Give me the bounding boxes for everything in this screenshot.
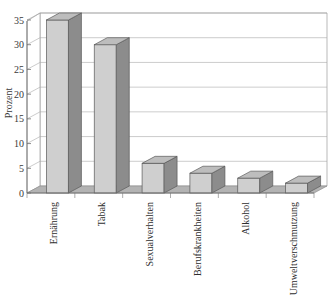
bar-side-face [68,13,81,193]
bar-front-face [46,20,68,193]
bar-side-face [116,38,129,193]
bar [46,13,81,193]
y-tick-label: 30 [14,39,24,50]
bar [142,156,177,193]
bar-front-face [286,183,308,193]
bar [190,166,225,193]
category-label: Tabak [96,202,107,226]
bar-front-face [238,178,260,193]
y-tick-label: 0 [19,188,24,199]
category-label: Alkohol [240,202,251,235]
y-tick-label: 35 [14,15,24,26]
category-label: Ernährung [48,202,59,244]
bar-chart: 05101520253035 Prozent ErnährungTabakSex… [0,0,336,301]
plot-left-wall [27,13,40,193]
chart-canvas: 05101520253035 Prozent ErnährungTabakSex… [0,0,336,301]
category-label: Sexualverhalten [144,202,155,266]
y-axis-title: Prozent [3,88,14,119]
bar-front-face [142,163,164,193]
plot-back-wall [40,13,327,186]
y-tick-label: 20 [14,89,24,100]
y-tick-label: 10 [14,138,24,149]
bar [94,38,129,193]
category-label: Berufskrankheiten [192,202,203,276]
y-tick-label: 25 [14,64,24,75]
y-tick-label: 15 [14,113,24,124]
plot-area [27,13,327,198]
y-tick-label: 5 [19,163,24,174]
bar-front-face [190,173,212,193]
bar-front-face [94,45,116,193]
category-label: Umweltverschmutzung [288,202,299,295]
